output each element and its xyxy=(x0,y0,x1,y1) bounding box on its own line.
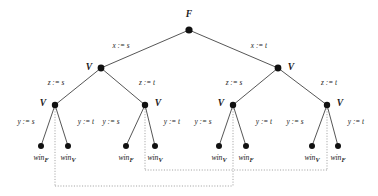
edge-label: y := s xyxy=(101,117,119,126)
node-label-v-R: V xyxy=(288,62,295,72)
edge-label: y := s xyxy=(193,117,211,126)
tree-edge xyxy=(219,105,233,146)
node-label-v-LL: V xyxy=(40,98,47,108)
leaf-label-subscript: F xyxy=(44,156,49,163)
node-label-v-RR: V xyxy=(337,98,344,108)
tree-node-v-R xyxy=(275,65,282,72)
tree-node-v-L xyxy=(98,65,105,72)
leaf-label-leaf-4: winV xyxy=(147,153,163,163)
tree-node-v-RR xyxy=(324,102,330,108)
edge-label: z := s xyxy=(225,78,243,87)
tree-node-v-LR xyxy=(142,102,148,108)
edge-label: y := t xyxy=(347,117,365,126)
tree-leaf-leaf-1 xyxy=(38,143,44,149)
node-label-root: F xyxy=(185,9,193,19)
edge-label: y := s xyxy=(285,117,303,126)
edge-label: y := s xyxy=(16,117,34,126)
leaf-label-base: win xyxy=(211,153,222,162)
leaf-label-leaf-1: winF xyxy=(33,153,49,163)
tree-leaf-leaf-6 xyxy=(243,143,249,149)
leaf-label-subscript: V xyxy=(222,156,227,163)
edge-label: z := t xyxy=(320,78,338,87)
tree-leaf-nodes xyxy=(38,143,341,149)
tree-edges xyxy=(41,30,338,146)
leaf-label-leaf-8: winF xyxy=(330,153,346,163)
leaf-label-subscript: F xyxy=(249,156,254,163)
leaf-label-base: win xyxy=(304,153,315,162)
game-tree-figure: x := sx := tz := sz := tz := sz := ty :=… xyxy=(0,0,378,196)
leaf-label-base: win xyxy=(33,153,44,162)
tree-edge xyxy=(312,105,327,146)
tree-leaf-leaf-3 xyxy=(123,143,129,149)
edge-label: x := s xyxy=(111,41,129,50)
leaf-label-leaf-2: winV xyxy=(60,153,76,163)
leaf-label-subscript: V xyxy=(158,156,163,163)
leaf-label-base: win xyxy=(60,153,71,162)
edge-label: y := t xyxy=(77,117,95,126)
leaf-label-leaf-6: winF xyxy=(238,153,254,163)
tree-edge xyxy=(278,68,327,105)
tree-node-root xyxy=(185,26,192,33)
tree-edge xyxy=(327,105,338,146)
leaf-label-leaf-3: winF xyxy=(118,153,134,163)
tree-node-v-RL xyxy=(230,102,236,108)
leaf-label-base: win xyxy=(238,153,249,162)
edge-label: y := t xyxy=(255,117,273,126)
leaf-label-subscript: V xyxy=(315,156,320,163)
tree-leaf-leaf-5 xyxy=(216,143,222,149)
leaf-label-subscript: F xyxy=(341,156,346,163)
tree-edge xyxy=(41,105,55,146)
leaf-label-leaf-7: winV xyxy=(304,153,320,163)
edge-label: z := s xyxy=(47,78,65,87)
edge-label: x := t xyxy=(250,41,268,50)
tree-node-v-LL xyxy=(52,102,58,108)
tree-edge xyxy=(126,105,145,146)
edge-label: z := t xyxy=(138,78,156,87)
node-label-v-LR: V xyxy=(155,98,162,108)
tree-leaf-labels: winFwinVwinFwinVwinVwinFwinVwinF xyxy=(33,153,346,163)
tree-edge xyxy=(233,105,246,146)
tree-edge xyxy=(55,105,68,146)
tree-edge xyxy=(145,105,155,146)
tree-leaf-leaf-7 xyxy=(309,143,315,149)
tree-leaf-leaf-2 xyxy=(65,143,71,149)
game-tree-canvas: x := sx := tz := sz := tz := sz := ty :=… xyxy=(0,0,378,196)
leaf-label-base: win xyxy=(147,153,158,162)
leaf-label-base: win xyxy=(118,153,129,162)
node-label-v-L: V xyxy=(86,62,93,72)
tree-leaf-leaf-4 xyxy=(152,143,158,149)
tree-node-labels: FVVVVVV xyxy=(40,9,344,108)
leaf-label-subscript: V xyxy=(71,156,76,163)
leaf-label-leaf-5: winV xyxy=(211,153,227,163)
leaf-label-base: win xyxy=(330,153,341,162)
tree-edge-labels: x := sx := tz := sz := tz := sz := ty :=… xyxy=(16,41,365,126)
leaf-label-subscript: F xyxy=(129,156,134,163)
node-label-v-RL: V xyxy=(218,98,225,108)
edge-label: y := t xyxy=(163,117,181,126)
tree-leaf-leaf-8 xyxy=(335,143,341,149)
